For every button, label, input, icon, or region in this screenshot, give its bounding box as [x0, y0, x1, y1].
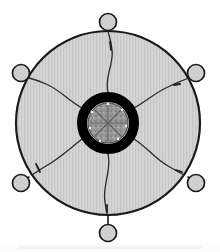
hub-rim-dot-7: [91, 111, 93, 113]
node-ne[interactable]: [188, 65, 205, 82]
node-nw[interactable]: [13, 65, 30, 82]
hub-rim-dot-4: [117, 138, 119, 140]
figure-root: [0, 0, 220, 252]
hub-rim-dot-1: [107, 103, 110, 106]
tick-ne: [174, 84, 180, 85]
node-se[interactable]: [188, 175, 205, 192]
hub-rim-dot-2: [121, 109, 123, 111]
node-sw[interactable]: [13, 175, 30, 192]
hub-internal-spokes: [90, 105, 126, 141]
hub-rim-dot-3: [125, 125, 127, 127]
hub-rim-dot-5: [99, 140, 101, 142]
central-hub: [88, 103, 128, 143]
tick-n: [110, 42, 111, 50]
page-shadow-artifact: [0, 244, 220, 252]
node-s[interactable]: [100, 225, 117, 242]
hub-rim-dot-6: [89, 127, 91, 129]
node-n[interactable]: [100, 14, 117, 31]
radial-disc-diagram: [0, 0, 220, 252]
